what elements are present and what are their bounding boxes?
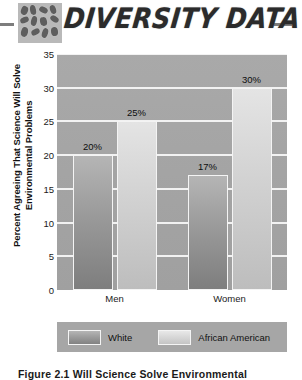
chart-area: Percent Agreeing That Science Will Solve… — [0, 48, 294, 310]
y-axis-ticks: 35302520151050 — [30, 48, 54, 290]
legend-item-african-american: African American — [158, 330, 270, 345]
y-tick-label: 15 — [30, 183, 54, 194]
bar-value-label: 20% — [83, 141, 102, 152]
y-tick-label: 20 — [30, 150, 54, 161]
gridline — [57, 54, 287, 55]
bar-men-african-american — [117, 121, 157, 290]
figure-title: DIVERSITY DATA — [63, 2, 302, 34]
legend-label-white: White — [108, 332, 132, 343]
bar-women-white — [188, 175, 228, 290]
legend-swatch-white — [68, 330, 101, 345]
y-axis-title-line1: Percent Agreeing That Science Will Solve — [11, 64, 22, 247]
figure-header: DIVERSITY DATA — [0, 0, 294, 46]
legend-item-white: White — [68, 330, 132, 345]
chart-legend: White African American — [57, 322, 287, 352]
plot-region: 20%25%17%30% — [57, 54, 287, 290]
y-tick-label: 25 — [30, 116, 54, 127]
legend-swatch-african-american — [158, 330, 191, 345]
y-tick-label: 10 — [30, 217, 54, 228]
x-tick-label-women: Women — [213, 293, 246, 304]
y-tick-label: 35 — [30, 49, 54, 60]
y-tick-label: 5 — [30, 251, 54, 262]
bar-women-african-american — [232, 88, 272, 290]
header-rule-left — [0, 23, 14, 26]
y-tick-label: 30 — [30, 82, 54, 93]
bar-value-label: 30% — [242, 74, 261, 85]
figure-caption: Figure 2.1 Will Science Solve Environmen… — [18, 368, 286, 380]
legend-label-african-american: African American — [198, 332, 270, 343]
y-tick-label: 0 — [30, 285, 54, 296]
bar-value-label: 25% — [127, 107, 146, 118]
bar-value-label: 17% — [198, 161, 217, 172]
x-tick-label-men: Men — [105, 293, 123, 304]
bar-men-white — [73, 155, 113, 290]
